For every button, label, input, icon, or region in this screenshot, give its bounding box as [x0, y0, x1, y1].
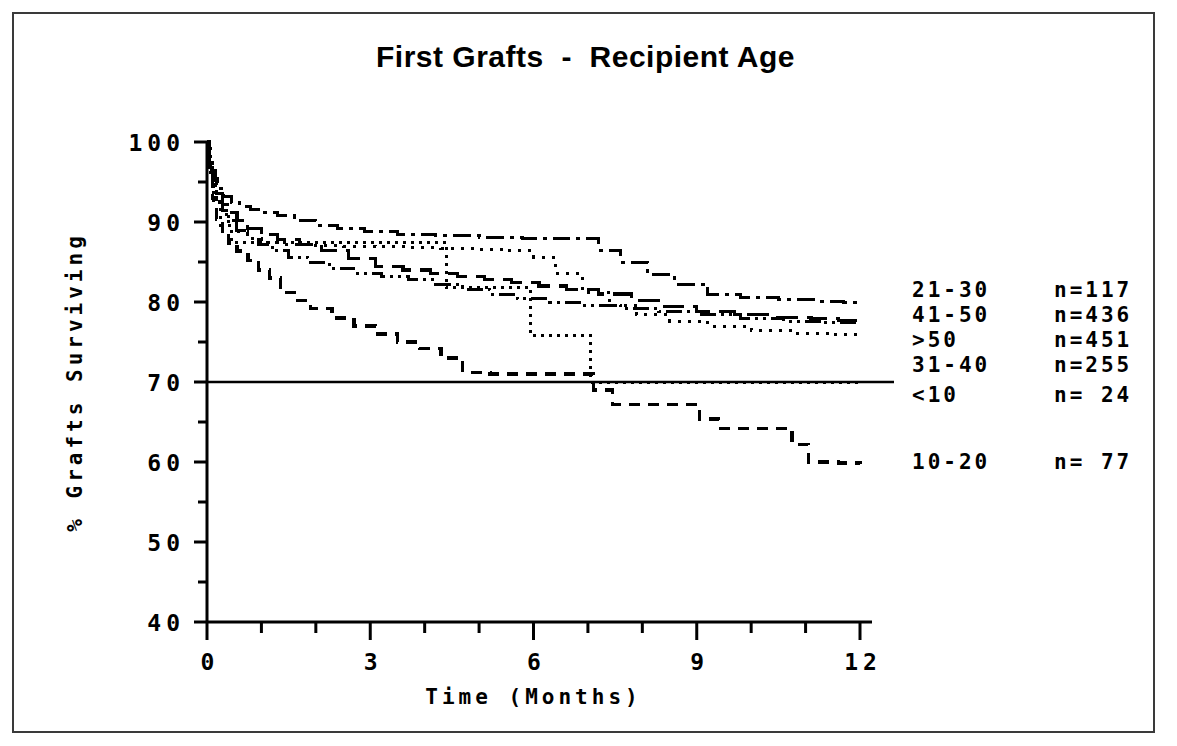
legend-label: 21-30 — [912, 278, 990, 302]
legend-count: n= 77 — [1054, 450, 1132, 474]
series-line-41-50 — [207, 142, 860, 321]
x-tick-label: 12 — [844, 649, 882, 675]
screenshot-root: First Grafts - Recipient Age 10090807060… — [0, 0, 1177, 746]
legend-label: >50 — [912, 328, 959, 352]
x-tick-label: 3 — [364, 649, 383, 675]
series-line-50 — [207, 142, 860, 324]
y-tick-label: 80 — [147, 290, 185, 316]
legend-count: n=117 — [1054, 278, 1132, 302]
y-tick-label: 90 — [147, 210, 185, 236]
chart-series-lines — [207, 142, 860, 464]
legend-count: n=451 — [1054, 328, 1132, 352]
x-axis-title: Time (Months) — [425, 685, 641, 709]
figure-frame: First Grafts - Recipient Age 10090807060… — [12, 12, 1155, 733]
legend-count: n= 24 — [1054, 383, 1132, 407]
y-tick-label: 50 — [147, 530, 185, 556]
x-tick-label: 6 — [527, 649, 546, 675]
y-tick-label: 100 — [128, 130, 185, 156]
legend-label: 10-20 — [912, 450, 990, 474]
chart-legend: 21-30n=11741-50n=436>50n=45131-40n=255<1… — [912, 278, 1132, 474]
legend-count: n=436 — [1054, 303, 1132, 327]
x-tick-label: 9 — [690, 649, 709, 675]
legend-label: 31-40 — [912, 353, 990, 377]
series-line-10-20 — [207, 142, 860, 464]
series-line-21-30 — [207, 142, 860, 304]
chart-axes — [194, 142, 872, 640]
survival-chart: 100908070605040036912Time (Months)% Graf… — [14, 14, 1157, 735]
y-tick-label: 40 — [147, 610, 185, 636]
legend-count: n=255 — [1054, 353, 1132, 377]
legend-label: 41-50 — [912, 303, 990, 327]
legend-label: <10 — [912, 383, 959, 407]
x-tick-label: 0 — [201, 649, 220, 675]
y-tick-label: 70 — [147, 370, 185, 396]
y-tick-label: 60 — [147, 450, 185, 476]
y-axis-title: % Grafts Surviving — [63, 232, 87, 532]
series-line-10 — [207, 142, 860, 382]
